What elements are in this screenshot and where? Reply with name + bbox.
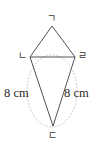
top-right-edge [52,26,75,57]
vertex-label-left: ㄴ [18,51,27,61]
vertex-label-right: ㄹ [78,51,87,61]
vertex-label-bottom: ㄷ [48,131,57,141]
right-side-measure-label: 8 cm [64,87,89,100]
left-side-measure-label: 8 cm [4,87,29,100]
top-left-edge [30,26,52,57]
geometry-figure: ㄱ ㄴ ㄹ ㄷ 8 cm 8 cm [0,0,104,154]
vertex-label-top: ㄱ [47,14,56,24]
